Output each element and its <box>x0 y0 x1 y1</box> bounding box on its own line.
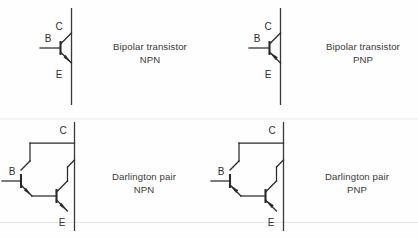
caption-darlington-npn: Darlington pair NPN <box>96 170 192 196</box>
caption-line-1: Darlington pair <box>309 170 405 183</box>
q2-collector-join <box>277 160 284 167</box>
label-base: B <box>218 166 225 177</box>
label-collector: C <box>59 125 66 136</box>
collector-lead <box>61 33 72 44</box>
caption-bipolar-pnp: Bipolar transistor PNP <box>313 40 413 66</box>
q2-collector-lead <box>57 181 68 192</box>
emitter-arrow-npn <box>64 55 72 63</box>
label-base: B <box>254 33 261 44</box>
label-base: B <box>45 33 52 44</box>
label-collector: C <box>264 21 271 32</box>
caption-line-2: PNP <box>309 183 405 196</box>
symbol-darlington-npn: C B E Darlington pair NPN <box>0 119 209 238</box>
label-collector: C <box>268 125 275 136</box>
scan-artifact-line <box>0 222 418 223</box>
q1-collector-lead <box>21 161 30 170</box>
symbol-bipolar-pnp: C B E Bipolar transistor PNP <box>209 0 418 119</box>
caption-line-1: Bipolar transistor <box>100 40 200 53</box>
caption-line-1: Darlington pair <box>96 170 192 183</box>
q2-collector-lead <box>266 181 277 192</box>
diagram-sheet: C B E Bipolar transistor NPN C B E Bipol… <box>0 0 418 238</box>
label-collector: C <box>55 21 62 32</box>
q1-emitter-arrow-npn <box>24 188 32 196</box>
label-emitter: E <box>265 69 272 80</box>
symbol-darlington-pnp: C B E Darlington pair PNP <box>209 119 418 238</box>
q2-emitter-arrow-npn <box>60 203 68 211</box>
caption-line-2: PNP <box>313 53 413 66</box>
collector-lead <box>270 33 281 44</box>
q1-collector-lead <box>230 161 239 170</box>
caption-darlington-pnp: Darlington pair PNP <box>309 170 405 196</box>
caption-line-2: NPN <box>100 53 200 66</box>
scan-artifact-band <box>0 118 418 120</box>
caption-bipolar-npn: Bipolar transistor NPN <box>100 40 200 66</box>
symbol-bipolar-npn: C B E Bipolar transistor NPN <box>0 0 209 119</box>
caption-line-1: Bipolar transistor <box>313 40 413 53</box>
caption-line-2: NPN <box>96 183 192 196</box>
q2-collector-join <box>68 160 75 167</box>
label-emitter: E <box>56 69 63 80</box>
label-base: B <box>9 166 16 177</box>
